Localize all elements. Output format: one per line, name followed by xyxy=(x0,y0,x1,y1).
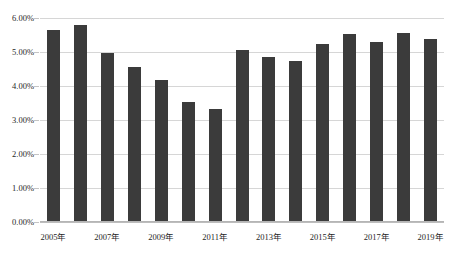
y-tick-label: 3.00% xyxy=(12,116,34,124)
bar-series xyxy=(40,18,444,222)
y-tick-label: 6.00% xyxy=(12,14,34,22)
y-axis-labels: 6.00%5.00%4.00%3.00%2.00%1.00%0.00% xyxy=(0,18,38,222)
y-tick-label: 5.00% xyxy=(12,48,34,56)
bar xyxy=(182,102,195,222)
bar xyxy=(316,44,329,222)
y-tick-mark xyxy=(34,222,39,223)
x-tick-label: 2017年 xyxy=(364,230,390,242)
bar xyxy=(47,30,60,222)
y-tick-label: 0.00% xyxy=(12,218,34,226)
y-tick-label: 2.00% xyxy=(12,150,34,158)
x-tick-label: 2019年 xyxy=(418,230,444,242)
bar xyxy=(101,53,114,222)
bar xyxy=(370,42,383,222)
bar xyxy=(343,34,356,222)
bar xyxy=(397,33,410,222)
plot-area xyxy=(40,18,444,222)
x-axis-labels: 2005年2007年2009年2011年2013年2015年2017年2019年 xyxy=(40,222,444,256)
x-tick-label: 2005年 xyxy=(40,230,66,242)
bar xyxy=(262,57,275,222)
x-tick-label: 2015年 xyxy=(310,230,336,242)
bar xyxy=(236,50,249,222)
y-tick-label: 1.00% xyxy=(12,184,34,192)
y-tick-mark xyxy=(34,86,39,87)
y-tick-mark xyxy=(34,120,39,121)
bar xyxy=(289,61,302,223)
bar xyxy=(74,25,87,222)
chart-title xyxy=(0,0,454,4)
x-tick-label: 2011年 xyxy=(202,230,228,242)
y-tick-mark xyxy=(34,18,39,19)
x-tick-label: 2009年 xyxy=(148,230,174,242)
x-tick-label: 2007年 xyxy=(94,230,120,242)
bar xyxy=(209,109,222,222)
bar xyxy=(424,39,437,222)
y-tick-mark xyxy=(34,154,39,155)
bar xyxy=(128,67,141,222)
y-tick-label: 4.00% xyxy=(12,82,34,90)
bar-chart: 6.00%5.00%4.00%3.00%2.00%1.00%0.00% 2005… xyxy=(0,0,454,262)
y-tick-mark xyxy=(34,188,39,189)
bar xyxy=(155,80,168,222)
y-tick-mark xyxy=(34,52,39,53)
x-tick-label: 2013年 xyxy=(256,230,282,242)
